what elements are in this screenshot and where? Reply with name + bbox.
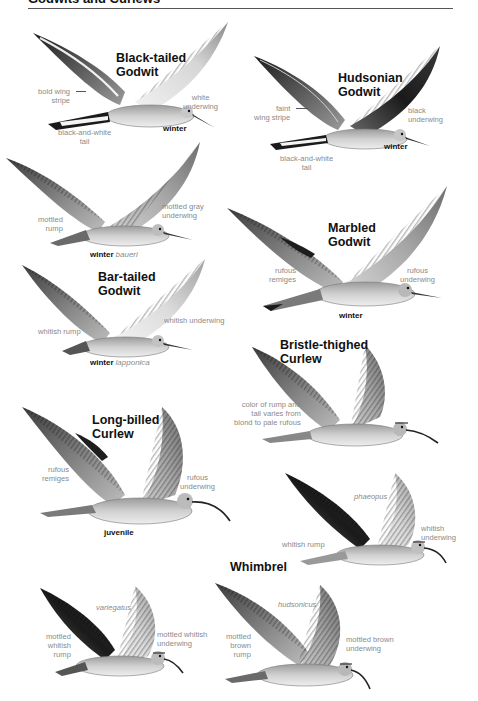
page-header: Godwits and Curlews [28,0,160,6]
species-name-line2: Godwit [338,86,403,100]
label-line: whitish underwing [164,316,224,325]
label-line: whitish rump [282,540,325,549]
label-subspecies: variegatus [96,603,131,612]
label-line: tail varies from [234,409,301,418]
label-line: brown [226,641,251,650]
plumage-label: winter [163,124,187,133]
label-underwing: mottled whitish underwing [157,630,207,648]
label-line: rump [226,650,251,659]
label-tail: black-and-white tail [280,154,333,172]
label-line: black-and-white [58,128,111,137]
plumage-label: winter [339,311,363,320]
species-name-line1: Bar-tailed [98,271,156,285]
label-line: underwing [421,533,456,542]
label-line: remiges [269,275,296,284]
label-line: stripe [38,96,70,105]
label-line: underwing [157,639,207,648]
label-rump: whitish rump [282,540,325,549]
black-tailed-godwit-illustration [0,20,240,150]
leader-line [296,108,308,109]
label-subspecies: hudsonicus [278,600,316,609]
subspecies-text: phaeopus [354,492,387,501]
plate-black-tailed-godwit: Black-tailed Godwit bold wing stripe whi… [0,20,240,150]
species-name: Bar-tailed Godwit [98,271,156,298]
label-line: white [183,93,218,102]
species-name-line2: Godwit [98,285,156,299]
plumage-label: winterlapponica [90,358,150,367]
label-line: black [408,106,443,115]
subspecies-text: variegatus [96,603,131,612]
plate-whimbrel-hudsonicus: hudsonicus mottled brown rump mottled br… [210,575,478,701]
label-line: bold wing [38,87,70,96]
label-remiges: rufous remiges [269,266,296,284]
plumage-text: winter [339,311,363,320]
species-name-line1: Marbled [328,222,376,236]
label-line: wing stripe [254,113,290,122]
label-underwing: rufous underwing [180,473,215,491]
species-name: Black-tailed Godwit [116,52,186,79]
species-name: Long-billed Curlew [92,414,159,441]
label-line: rump [38,224,63,233]
species-name: Bristle-thighed Curlew [280,339,368,366]
plumage-text: winter [163,124,187,133]
plumage-label: juvenile [104,528,134,537]
label-line: mottled [46,632,71,641]
label-line: mottled whitish [157,630,207,639]
label-line: rump [46,650,71,659]
label-rump-tail: color of rump and tail varies from blond… [234,400,301,427]
label-underwing: whitish underwing [421,524,456,542]
label-line: rufous [42,465,69,474]
label-line: mottled [226,632,251,641]
leader-line [76,91,86,92]
label-line: tail [280,163,333,172]
label-line: blond to pale rufous [234,418,301,427]
label-line: underwing [162,211,204,220]
species-name-whimbrel: Whimbrel [230,561,287,575]
label-line: rufous [269,266,296,275]
label-underwing: mottled gray underwing [162,202,204,220]
species-name-line1: Black-tailed [116,52,186,66]
label-line: underwing [183,102,218,111]
species-name-line2: Curlew [280,353,368,367]
plumage-label: winter [384,142,408,151]
subspecies-text: hudsonicus [278,600,316,609]
plate-marbled-godwit: Marbled Godwit rufous remiges rufous und… [225,182,478,327]
label-underwing: rufous underwing [400,266,435,284]
species-name-line2: Curlew [92,428,159,442]
species-name-line2: Godwit [328,236,376,250]
plate-bristle-thighed-curlew: Bristle-thighed Curlew color of rump and… [200,335,478,450]
species-name-line1: Hudsonian [338,72,403,86]
label-line: mottled [38,215,63,224]
label-wing-stripe: bold wing stripe [38,87,70,105]
label-rump: whitish rump [38,327,81,336]
label-line: whitish rump [38,327,81,336]
species-name: Marbled Godwit [328,222,376,249]
plate-bar-tailed-godwit-baueri: mottled rump mottled gray underwing wint… [0,140,230,260]
species-name-line1: Long-billed [92,414,159,428]
marbled-godwit-illustration [225,182,478,327]
plumage-text: winter [90,358,114,367]
label-rump: mottled rump [38,215,63,233]
plumage-text: juvenile [104,528,134,537]
label-rump: mottled brown rump [226,632,251,659]
label-line: underwing [408,115,443,124]
label-wing-stripe: faint wing stripe [254,104,290,122]
label-line: underwing [180,482,215,491]
subspecies-text: lapponica [116,358,150,367]
plate-bar-tailed-godwit-lapponica: Bar-tailed Godwit whitish rump whitish u… [0,255,230,375]
label-subspecies: phaeopus [354,492,387,501]
label-line: whitish [46,641,71,650]
label-line: rufous [180,473,215,482]
label-underwing: white underwing [183,93,218,111]
species-name: Hudsonian Godwit [338,72,403,99]
label-underwing: mottled brown underwing [346,635,394,653]
species-name-line1: Bristle-thighed [280,339,368,353]
hudsonian-godwit-illustration [240,42,478,162]
label-line: mottled gray [162,202,204,211]
label-line: underwing [346,644,394,653]
label-remiges: rufous remiges [42,465,69,483]
species-name-line1: Whimbrel [230,560,287,574]
plate-hudsonian-godwit: Hudsonian Godwit faint wing stripe black… [240,42,478,162]
label-line: underwing [400,275,435,284]
label-underwing: whitish underwing [164,316,224,325]
